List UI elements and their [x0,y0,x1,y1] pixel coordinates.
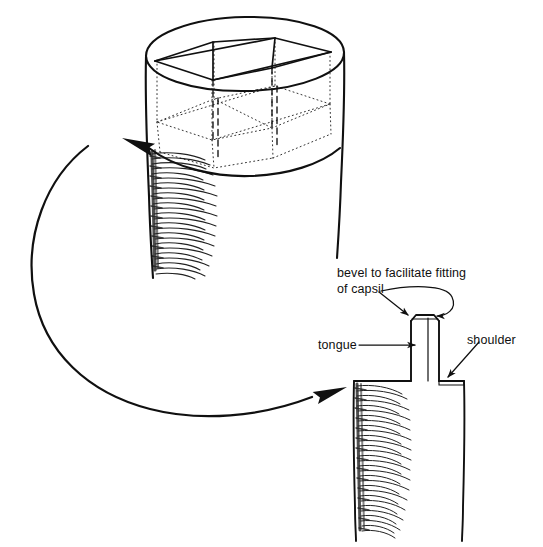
leader-lines [359,287,479,377]
tongue-layout-top-face [155,38,331,80]
transform-arrow [32,132,349,416]
finished-post-drawing [354,315,465,541]
cylinder-right-wall [337,53,344,258]
leader-bevel-right [381,287,454,316]
leader-shoulder [448,342,479,377]
post-bark-hatching [355,384,411,538]
technical-drawing: bevel to facilitate fitting of capsil to… [0,0,543,547]
bevel-label-line2: of capsil [337,282,384,296]
tongue-label: tongue [318,338,357,352]
log-bark-hatching [150,150,217,279]
arrowhead-end [313,380,349,404]
shoulder-label: shoulder [467,333,516,347]
cut-rim-line [149,148,340,176]
construction-lines-dashed [213,68,277,159]
diagram-canvas: bevel to facilitate fitting of capsil to… [0,0,543,547]
log-end-drawing [146,17,345,279]
arrowhead-start [120,132,156,156]
bevel-label-line1: bevel to facilitate fitting [337,266,466,280]
tongue-shape [411,315,439,381]
